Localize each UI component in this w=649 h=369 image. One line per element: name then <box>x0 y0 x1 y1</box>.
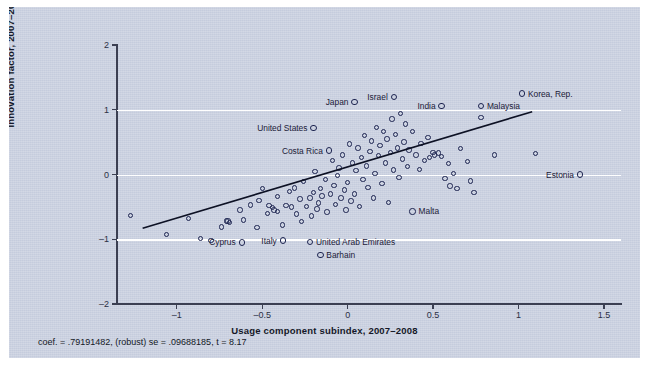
x-tick-mark <box>176 305 177 309</box>
x-tick-mark <box>432 305 433 309</box>
point-label-barhain: Barhain <box>326 251 355 259</box>
x-tick-label: –0.5 <box>253 310 271 320</box>
x-tick-mark <box>347 305 348 309</box>
point-label-costa-rica: Costa Rica <box>282 146 323 154</box>
point-label-united-arab-emirates: United Arab Emirates <box>316 238 395 246</box>
x-tick-label: 1.5 <box>598 310 611 320</box>
x-axis-title: Usage component subindex, 2007–2008 <box>9 325 640 336</box>
point-label-israel: Israel <box>367 93 387 101</box>
point-label-malaysia: Malaysia <box>487 102 520 110</box>
x-tick-mark <box>518 305 519 309</box>
x-tick-label: –1 <box>172 310 182 320</box>
chart-panel: JapanIsraelIndiaMalaysiaKorea, Rep.Unite… <box>9 7 640 358</box>
x-tick-label: 0 <box>345 310 350 320</box>
y-tick-mark <box>112 303 116 304</box>
point-label-japan: Japan <box>326 98 349 106</box>
point-label-united-states: United States <box>257 124 307 132</box>
y-tick-label: 1 <box>87 105 109 115</box>
point-label-korea-rep: Korea, Rep. <box>528 89 573 97</box>
y-tick-label: –1 <box>87 234 109 244</box>
x-tick-mark <box>262 305 263 309</box>
y-tick-mark <box>112 239 116 240</box>
plot-area: JapanIsraelIndiaMalaysiaKorea, Rep.Unite… <box>117 45 621 304</box>
point-label-estonia: Estonia <box>546 170 574 178</box>
point-label-india: India <box>417 102 435 110</box>
y-tick-mark <box>112 109 116 110</box>
y-tick-mark <box>112 174 116 175</box>
y-tick-mark <box>112 44 116 45</box>
y-axis-title: Innovation factor, 2007–2008 <box>9 7 16 175</box>
x-tick-label: 1 <box>516 310 521 320</box>
x-tick-label: 0.5 <box>427 310 440 320</box>
point-label-italy: Italy <box>261 236 276 244</box>
figure-container: JapanIsraelIndiaMalaysiaKorea, Rep.Unite… <box>0 0 649 369</box>
regression-footnote: coef. = .79191482, (robust) se = .096881… <box>38 337 246 347</box>
y-tick-label: 2 <box>87 40 109 50</box>
y-tick-label: –2 <box>87 299 109 309</box>
y-tick-label: 0 <box>87 170 109 180</box>
point-label-malta: Malta <box>419 207 439 215</box>
x-tick-mark <box>603 305 604 309</box>
point-label-cyprus: Cyprus <box>209 238 236 246</box>
